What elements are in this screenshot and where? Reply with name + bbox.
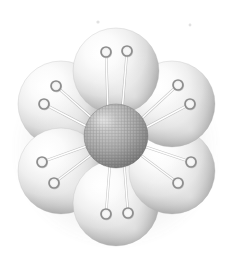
pin-2-head xyxy=(122,46,133,57)
speck-left xyxy=(96,20,99,23)
petal-top xyxy=(73,28,159,114)
pin-5-head xyxy=(186,157,197,168)
pin-1-head xyxy=(101,47,112,58)
pin-9-head xyxy=(49,178,60,189)
pin-12-head xyxy=(51,81,62,92)
pin-7-head xyxy=(123,208,134,219)
pin-4-head xyxy=(185,99,196,110)
pin-8-head xyxy=(101,209,112,220)
pin-10-head xyxy=(37,157,48,168)
figure-root: Sphere Rosette xyxy=(0,0,232,269)
speck-right xyxy=(189,24,192,27)
central-sphere-group xyxy=(84,104,148,168)
pin-3-head xyxy=(173,80,184,91)
sphere-rosette-illustration: Sphere Rosette xyxy=(0,0,232,269)
pin-6-head xyxy=(173,178,184,189)
pin-11-head xyxy=(39,99,50,110)
